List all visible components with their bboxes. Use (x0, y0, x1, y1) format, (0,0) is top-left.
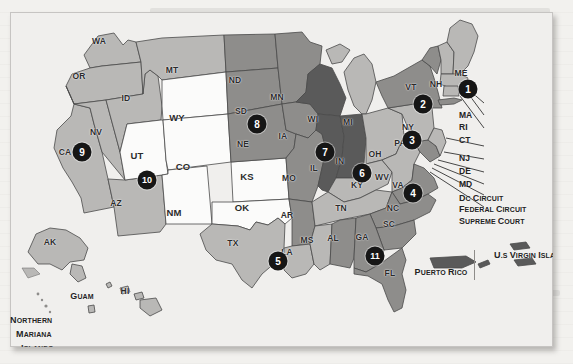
state-label-ak: AK (44, 237, 57, 247)
state-label-wa: WA (92, 36, 106, 46)
state-label-mi: MI (343, 117, 353, 127)
territory-label-u-s-virgin-islands: U.S VIRGIN ISLANDS (494, 250, 553, 260)
state-label-id: ID (122, 93, 131, 103)
state-label-il: IL (310, 163, 318, 173)
state-label-tx: TX (227, 238, 238, 248)
state-label-or: OR (72, 71, 85, 81)
circuit-badge-9: 9 (73, 143, 92, 162)
territory-label-puerto-rico: PUERTO RICO (415, 267, 468, 277)
state-label-nc: NC (387, 203, 400, 213)
state-label-in: IN (336, 156, 345, 166)
territory-divider (474, 250, 475, 280)
circuit-badge-10: 10 (138, 171, 157, 190)
state-label-wy: WY (169, 112, 185, 123)
callout-de: DE (459, 166, 471, 176)
state-label-nd: ND (229, 75, 242, 85)
circuit-badge-5: 5 (269, 252, 288, 271)
us-judicial-circuits-map: .o{stroke:#4a4a4a;stroke-width:.8;stroke… (10, 12, 553, 347)
state-label-tn: TN (335, 203, 347, 213)
state-label-ia: IA (279, 131, 288, 141)
state-label-vt: VT (405, 82, 416, 92)
state-label-ne: NE (237, 139, 249, 149)
callout-supreme-court: SUPREME COURT (459, 216, 525, 226)
callout-ma: MA (459, 110, 472, 120)
callout-ri: RI (459, 122, 468, 132)
state-label-ks: KS (240, 171, 254, 182)
state-label-al: AL (327, 233, 339, 243)
circuit-badge-8: 8 (248, 115, 267, 134)
state-label-mt: MT (166, 65, 179, 75)
state-label-me: ME (454, 68, 467, 78)
state-label-oh: OH (368, 149, 381, 159)
state-label-sc: SC (383, 219, 395, 229)
state-label-mn: MN (270, 92, 284, 102)
state-label-ms: MS (300, 235, 313, 245)
state-label-nm: NM (166, 207, 181, 218)
state-label-sd: SD (235, 106, 247, 116)
callout-md: MD (459, 179, 472, 189)
state-label-wv: WV (375, 172, 389, 182)
territory-label-guam: GUAM (70, 291, 94, 301)
state-label-ar: AR (281, 210, 294, 220)
circuit-badge-2: 2 (414, 95, 433, 114)
territory-label-northern: NORTHERN (10, 315, 52, 325)
callout-dc-circuit: DC CIRCUIT (459, 193, 503, 203)
callout-ct: CT (459, 135, 470, 145)
circuit-badge-4: 4 (404, 184, 423, 203)
circuit-badge-1: 1 (459, 80, 478, 99)
state-label-fl: FL (385, 268, 396, 278)
state-label-ca: CA (59, 147, 72, 157)
territory-label-mariana: MARIANA (16, 329, 52, 339)
state-label-ga: GA (355, 232, 368, 242)
circuit-badge-3: 3 (403, 131, 422, 150)
state-label-nh: NH (430, 79, 443, 89)
state-label-nv: NV (90, 127, 102, 137)
state-label-wi: WI (308, 114, 319, 124)
state-label-ut: UT (130, 150, 143, 161)
circuit-badge-11: 11 (366, 247, 385, 266)
callout-nj: NJ (459, 153, 470, 163)
circuit-badge-6: 6 (353, 164, 372, 183)
state-label-az: AZ (110, 198, 122, 208)
state-label-hi: HI (121, 286, 130, 296)
territory-label-islands: ISLANDS (21, 343, 53, 347)
state-label-ok: OK (235, 202, 250, 213)
circuit-badge-7: 7 (316, 143, 335, 162)
state-label-co: CO (176, 161, 191, 172)
state-label-mo: MO (282, 173, 296, 183)
state-label-va: VA (392, 180, 404, 190)
callout-federal-circuit: FEDERAL CIRCUIT (459, 204, 526, 214)
